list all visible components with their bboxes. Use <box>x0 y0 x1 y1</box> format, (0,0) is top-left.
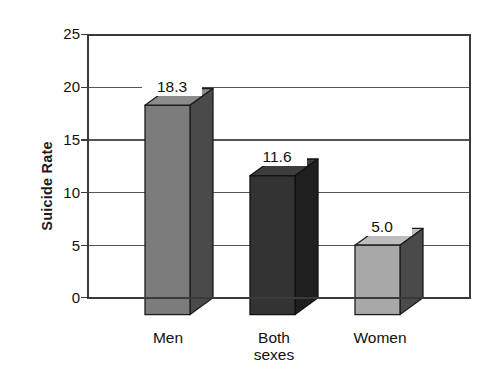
category-label-both-sexes-line1: Both <box>234 329 314 346</box>
value-label-both-sexes: 11.6 <box>247 148 307 166</box>
category-label-men: Men <box>128 329 208 346</box>
y-tick-marks <box>81 35 88 298</box>
category-label-women: Women <box>338 329 422 346</box>
value-label-men: 18.3 <box>142 78 202 96</box>
bar-both-sexes[interactable] <box>250 159 318 315</box>
bar-men-side <box>190 89 213 315</box>
category-label-both-sexes: Both sexes <box>234 329 314 364</box>
category-label-both-sexes-line2: sexes <box>234 346 314 363</box>
bar-both-sexes-side <box>295 159 318 315</box>
bar-women-front <box>355 245 400 314</box>
bar-men-front <box>145 105 190 314</box>
bar-both-sexes-front <box>250 176 295 315</box>
category-label-men-line1: Men <box>128 329 208 346</box>
bar-women[interactable] <box>355 228 423 314</box>
suicide-rate-bar-chart: Suicide Rate 25 20 15 10 5 0 <box>0 0 499 389</box>
category-label-women-line1: Women <box>338 329 422 346</box>
value-label-women: 5.0 <box>352 218 412 236</box>
bar-men[interactable] <box>145 89 213 315</box>
